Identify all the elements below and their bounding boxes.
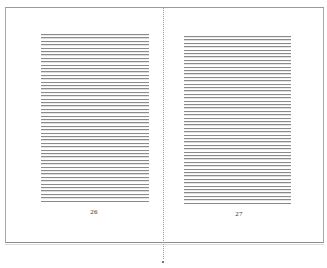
bottom-center-mark (162, 261, 164, 263)
right-page-number: 27 (224, 210, 254, 218)
right-page: 27 (164, 8, 325, 242)
spread-bottom-edge (5, 244, 324, 245)
left-page-number: 26 (79, 208, 109, 216)
page-spread: 26 27 (5, 7, 324, 243)
left-page: 26 (6, 8, 164, 242)
gutter-divider (163, 7, 164, 259)
right-page-text-block (184, 36, 291, 205)
left-page-text-block (41, 34, 149, 202)
